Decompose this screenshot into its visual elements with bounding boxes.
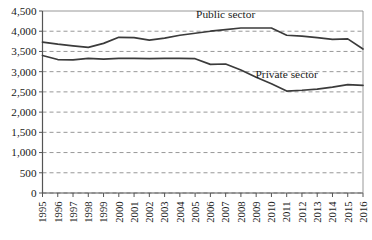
x-tick-label-2015: 2015 (343, 202, 354, 223)
x-tick-label-2012: 2012 (297, 202, 308, 223)
x-tick-label-1996: 1996 (53, 202, 64, 223)
y-tick-label-2500: 2,500 (11, 86, 37, 98)
x-tick-label-2010: 2010 (266, 202, 277, 223)
series-label-public-sector: Public sector (196, 8, 255, 20)
series-line-public-sector (43, 28, 364, 49)
x-tick-label-2000: 2000 (114, 202, 125, 223)
x-tick-label-2013: 2013 (312, 202, 323, 223)
y-axis (39, 11, 43, 193)
chart-container: 05001,0001,5002,0002,5003,0003,5004,0004… (0, 0, 372, 240)
x-tick-label-2002: 2002 (144, 202, 155, 223)
x-tick-label-2009: 2009 (251, 202, 262, 223)
y-tick-label-500: 500 (20, 167, 37, 179)
x-tick-label-2011: 2011 (281, 202, 292, 223)
y-tick-label-2000: 2,000 (11, 106, 37, 118)
x-tick-label-1995: 1995 (37, 202, 48, 223)
y-tick-label-3500: 3,500 (11, 45, 37, 57)
y-tick-label-1000: 1,000 (11, 146, 37, 158)
x-tick-label-2006: 2006 (205, 202, 216, 223)
y-tick-label-4000: 4,000 (11, 25, 37, 37)
x-tick-label-2008: 2008 (236, 202, 247, 223)
x-tick-label-1998: 1998 (83, 202, 94, 223)
x-tick-label-2005: 2005 (190, 202, 201, 223)
data-series (43, 28, 364, 91)
y-tick-labels: 05001,0001,5002,0002,5003,0003,5004,0004… (11, 5, 37, 199)
series-label-private-sector: Private sector (256, 68, 319, 80)
y-tick-label-4500: 4,500 (11, 5, 37, 17)
line-chart: 05001,0001,5002,0002,5003,0003,5004,0004… (0, 0, 372, 240)
y-tick-label-0: 0 (31, 187, 37, 199)
x-tick-label-2014: 2014 (327, 201, 338, 223)
x-tick-label-2016: 2016 (358, 202, 369, 223)
y-tick-label-1500: 1,500 (11, 126, 37, 138)
x-tick-label-2004: 2004 (175, 201, 186, 223)
x-tick-label-2003: 2003 (159, 202, 170, 223)
x-tick-label-1999: 1999 (98, 202, 109, 223)
gridlines (43, 31, 364, 193)
x-tick-labels: 1995199619971998199920002001200220032004… (37, 201, 369, 223)
series-annotations: Public sectorPrivate sector (196, 8, 318, 80)
y-tick-label-3000: 3,000 (11, 66, 37, 78)
x-tick-label-2007: 2007 (220, 202, 231, 223)
x-tick-label-1997: 1997 (68, 202, 79, 223)
x-axis (43, 193, 364, 197)
x-tick-label-2001: 2001 (129, 202, 140, 223)
